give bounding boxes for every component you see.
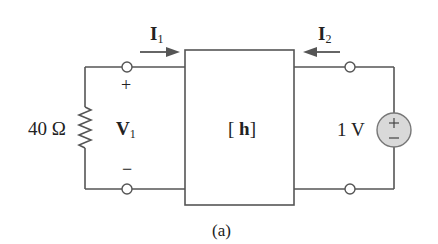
port2-top-terminal (345, 62, 355, 72)
port1-top-terminal (122, 62, 132, 72)
network-h-label: [ h] (228, 119, 256, 138)
current-i1-label: I1 (150, 24, 163, 45)
source-voltage-label: 1 V (337, 120, 365, 139)
port2-bottom-terminal (345, 184, 355, 194)
port1-bottom-terminal (122, 184, 132, 194)
current-i2-label: I2 (318, 24, 331, 45)
figure-caption: (a) (212, 222, 231, 239)
resistor-40-ohm (79, 107, 91, 148)
v1-minus-sign: − (122, 160, 132, 178)
circuit-diagram: I1 I2 + − V1 40 Ω [ h] 1 V (a) (0, 0, 438, 244)
resistor-label: 40 Ω (28, 119, 66, 138)
v1-plus-sign: + (121, 76, 131, 94)
voltage-v1-label: V1 (116, 119, 136, 140)
